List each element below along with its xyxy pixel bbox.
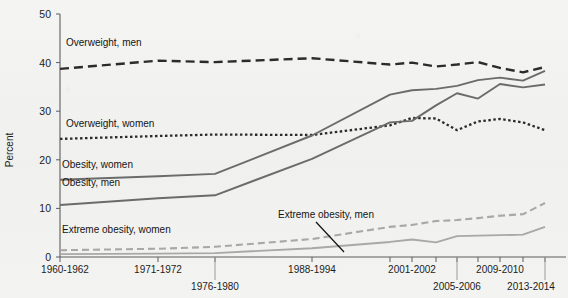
y-tick-label: 50 bbox=[39, 8, 51, 20]
x-tick-label: 1960-1962 bbox=[41, 264, 89, 275]
y-tick-label: 20 bbox=[39, 154, 51, 166]
series-label-overweight-men: Overweight, men bbox=[66, 37, 142, 48]
x-tick-label: 1988-1994 bbox=[288, 264, 336, 275]
series-line-obesity-men bbox=[60, 84, 545, 205]
x-tick-label: 1976-1980 bbox=[191, 281, 239, 292]
y-axis-ticks bbox=[56, 14, 60, 257]
y-tick-label: 10 bbox=[39, 202, 51, 214]
series-label-extreme-obesity-men: Extreme obesity, men bbox=[278, 209, 374, 220]
x-tick-label: 1971-1972 bbox=[134, 264, 182, 275]
y-tick-label: 40 bbox=[39, 57, 51, 69]
y-tick-label: 0 bbox=[45, 251, 51, 263]
x-tick-label: 2001-2002 bbox=[388, 264, 436, 275]
x-tick-label: 2009-2010 bbox=[476, 264, 524, 275]
series-label-overweight-women: Overweight, women bbox=[66, 118, 154, 129]
series-label-obesity-men: Obesity, men bbox=[62, 177, 120, 188]
line-chart: 01020304050 1960-19621971-19721976-19801… bbox=[0, 0, 568, 298]
x-tick-label: 2013-2014 bbox=[507, 281, 555, 292]
series-label-extreme-obesity-women: Extreme obesity, women bbox=[62, 224, 171, 235]
x-tick-label: 2005-2006 bbox=[433, 281, 481, 292]
y-tick-label: 30 bbox=[39, 105, 51, 117]
series-label-obesity-women: Obesity, women bbox=[62, 159, 133, 170]
y-axis-title: Percent bbox=[4, 133, 15, 168]
x-axis-tick-labels: 1960-19621971-19721976-19801988-19942001… bbox=[41, 264, 555, 292]
series-line-overweight-men bbox=[60, 58, 545, 72]
y-axis-tick-labels: 01020304050 bbox=[39, 8, 51, 263]
series-labels: Overweight, menOverweight, womenObesity,… bbox=[62, 37, 374, 235]
